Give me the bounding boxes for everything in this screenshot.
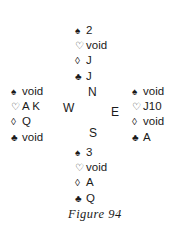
club-icon: ♣ xyxy=(75,69,86,84)
heart-icon: ♡ xyxy=(11,99,22,114)
west-spades: ♠void xyxy=(11,84,43,99)
west-hearts: ♡A K xyxy=(11,99,43,114)
club-icon: ♣ xyxy=(132,130,143,145)
club-icon: ♣ xyxy=(11,130,22,145)
card-values: J xyxy=(86,54,92,66)
card-values: J xyxy=(86,70,92,82)
north-hearts: ♡void xyxy=(75,38,107,53)
card-values: J10 xyxy=(143,100,162,112)
card-values: void xyxy=(143,85,164,97)
north-spades: ♠2 xyxy=(75,23,107,38)
club-icon: ♣ xyxy=(75,191,86,206)
figure-caption: Figure 94 xyxy=(68,207,122,222)
card-values: void xyxy=(86,39,107,51)
diamond-icon: ◊ xyxy=(75,53,86,68)
compass-north: N xyxy=(88,85,97,99)
north-diamonds: ◊J xyxy=(75,53,107,68)
south-hand: ♠3 ♡void ◊A ♣Q xyxy=(75,145,107,206)
east-hand: ♠void ♡J10 ◊void ♣A xyxy=(132,84,164,145)
compass-south: S xyxy=(89,126,97,140)
heart-icon: ♡ xyxy=(75,38,86,53)
east-diamonds: ◊void xyxy=(132,114,164,129)
north-hand: ♠2 ♡void ◊J ♣J xyxy=(75,23,107,84)
spade-icon: ♠ xyxy=(75,145,86,160)
diamond-icon: ◊ xyxy=(132,114,143,129)
south-spades: ♠3 xyxy=(75,145,107,160)
diamond-icon: ◊ xyxy=(75,175,86,190)
west-hand: ♠void ♡A K ◊Q ♣void xyxy=(11,84,43,145)
card-values: Q xyxy=(86,192,95,204)
spade-icon: ♠ xyxy=(11,84,22,99)
card-values: void xyxy=(22,131,43,143)
east-spades: ♠void xyxy=(132,84,164,99)
south-diamonds: ◊A xyxy=(75,175,107,190)
card-values: A K xyxy=(22,100,40,112)
spade-icon: ♠ xyxy=(75,23,86,38)
card-values: 3 xyxy=(86,146,92,158)
compass-east: E xyxy=(111,105,119,119)
card-values: A xyxy=(143,131,151,143)
south-clubs: ♣Q xyxy=(75,191,107,206)
card-values: void xyxy=(22,85,43,97)
diamond-icon: ◊ xyxy=(11,114,22,129)
heart-icon: ♡ xyxy=(132,99,143,114)
card-values: void xyxy=(143,115,164,127)
spade-icon: ♠ xyxy=(132,84,143,99)
card-values: A xyxy=(86,176,94,188)
west-diamonds: ◊Q xyxy=(11,114,43,129)
card-values: 2 xyxy=(86,24,92,36)
south-hearts: ♡void xyxy=(75,160,107,175)
heart-icon: ♡ xyxy=(75,160,86,175)
compass-west: W xyxy=(63,101,74,115)
east-clubs: ♣A xyxy=(132,130,164,145)
west-clubs: ♣void xyxy=(11,130,43,145)
east-hearts: ♡J10 xyxy=(132,99,164,114)
card-values: void xyxy=(86,161,107,173)
card-values: Q xyxy=(22,115,31,127)
north-clubs: ♣J xyxy=(75,69,107,84)
